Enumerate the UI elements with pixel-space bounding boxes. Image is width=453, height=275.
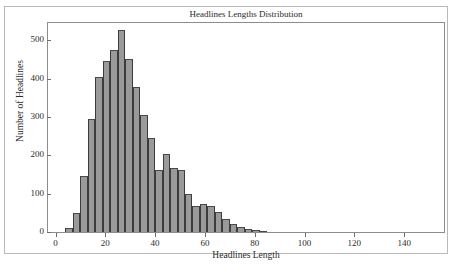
histogram-bar bbox=[88, 119, 95, 232]
histogram-bar bbox=[230, 224, 237, 232]
histogram-bar bbox=[170, 168, 177, 232]
x-tick-label: 20 bbox=[90, 239, 120, 248]
chart-figure: Headlines Lengths Distribution 010020030… bbox=[0, 0, 453, 275]
y-tick-label: 0 bbox=[18, 227, 44, 236]
y-tick-label: 100 bbox=[18, 189, 44, 198]
y-tick-mark bbox=[47, 194, 51, 195]
x-tick-label: 40 bbox=[140, 239, 170, 248]
histogram-bar bbox=[103, 61, 110, 232]
y-tick-mark bbox=[47, 117, 51, 118]
histogram-bar bbox=[133, 87, 140, 232]
histogram-bar bbox=[73, 213, 80, 232]
y-tick-mark bbox=[47, 79, 51, 80]
x-tick-mark bbox=[404, 233, 405, 237]
histogram-bar bbox=[95, 77, 102, 232]
histogram-bar bbox=[245, 229, 252, 232]
x-tick-mark bbox=[56, 233, 57, 237]
y-tick-mark bbox=[47, 232, 51, 233]
histogram-bar bbox=[222, 219, 229, 232]
x-tick-label: 80 bbox=[240, 239, 270, 248]
x-tick-label: 100 bbox=[290, 239, 320, 248]
histogram-bar bbox=[155, 170, 162, 232]
chart-title: Headlines Lengths Distribution bbox=[47, 7, 445, 22]
x-tick-label: 120 bbox=[339, 239, 369, 248]
histogram-bar bbox=[252, 230, 259, 232]
histogram-bar bbox=[185, 194, 192, 232]
histogram-bar bbox=[200, 204, 207, 232]
x-tick-label: 60 bbox=[190, 239, 220, 248]
histogram-bar bbox=[260, 231, 267, 232]
histogram-bar bbox=[237, 227, 244, 232]
x-tick-label: 140 bbox=[389, 239, 419, 248]
histogram-bar bbox=[125, 59, 132, 232]
histogram-bar bbox=[192, 206, 199, 232]
y-tick-mark bbox=[47, 155, 51, 156]
histogram-bar bbox=[65, 228, 72, 232]
histogram-bar bbox=[207, 206, 214, 232]
x-axis-label: Headlines Length bbox=[47, 250, 445, 260]
y-axis-label: Number of Headlines bbox=[15, 21, 25, 181]
histogram-bar bbox=[215, 212, 222, 232]
x-tick-mark bbox=[255, 233, 256, 237]
histogram-bar bbox=[178, 170, 185, 233]
x-tick-mark bbox=[105, 233, 106, 237]
x-tick-mark bbox=[155, 233, 156, 237]
x-tick-mark bbox=[354, 233, 355, 237]
x-tick-mark bbox=[205, 233, 206, 237]
histogram-bar bbox=[118, 30, 125, 232]
plot-area bbox=[48, 23, 444, 232]
x-tick-mark bbox=[305, 233, 306, 237]
histogram-bar bbox=[80, 176, 87, 232]
histogram-bar bbox=[140, 115, 147, 232]
x-tick-label: 0 bbox=[41, 239, 71, 248]
y-tick-mark bbox=[47, 40, 51, 41]
histogram-bar bbox=[148, 138, 155, 232]
histogram-bar bbox=[110, 50, 117, 232]
histogram-bar bbox=[163, 154, 170, 232]
